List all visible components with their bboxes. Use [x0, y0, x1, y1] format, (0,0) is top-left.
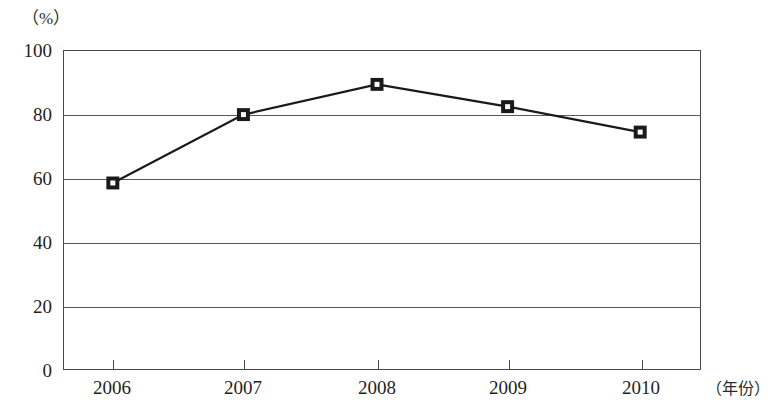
- x-axis-tick-label: 2009: [489, 378, 527, 397]
- x-axis-tick-label: 2006: [93, 378, 131, 397]
- x-axis-tick-label: 2007: [224, 378, 262, 397]
- x-axis-tick-label: 2010: [622, 378, 660, 397]
- chart-screenshot: （%） （年份） 020406080100 200620072008200920…: [0, 0, 771, 409]
- x-axis-tick-labels: 20062007200820092010: [0, 0, 771, 409]
- x-axis-tick-label: 2008: [358, 378, 396, 397]
